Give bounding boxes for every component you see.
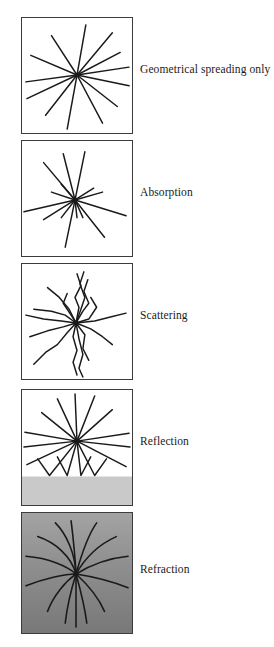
panel-scattering (21, 263, 133, 380)
panel-label-absorption: Absorption (140, 187, 193, 199)
source-point (75, 73, 80, 78)
refraction-diagram (22, 513, 132, 633)
lower-layer-reflector (22, 476, 132, 505)
source-point (73, 198, 78, 203)
scattering-diagram (22, 264, 132, 379)
source-point (74, 439, 79, 444)
source-point (73, 571, 78, 576)
geometrical-spreading-diagram (22, 18, 132, 133)
absorption-diagram (22, 141, 132, 256)
panel-label-reflection: Reflection (140, 436, 189, 448)
panel-absorption (21, 140, 133, 257)
panel-refraction (21, 512, 133, 634)
source-point (73, 320, 79, 326)
reflection-diagram (22, 390, 132, 505)
panel-label-refraction: Refraction (140, 564, 190, 576)
panel-reflection (21, 389, 133, 506)
panel-label-geometrical-spreading: Geometrical spreading only (140, 64, 270, 76)
wave-propagation-figure: Geometrical spreading only (0, 0, 274, 647)
panel-label-scattering: Scattering (140, 310, 188, 322)
panel-geometrical-spreading (21, 17, 133, 134)
